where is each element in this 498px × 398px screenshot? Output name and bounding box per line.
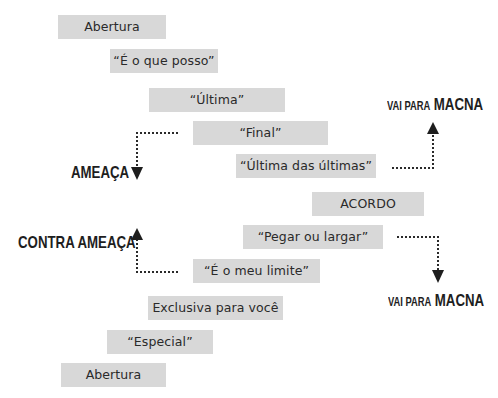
connector-limite-to-contra-ameaca: [137, 238, 178, 272]
connector-layer: [0, 0, 498, 398]
arrowhead-up-icon: [131, 228, 143, 240]
connector-pegar-ou-largar-to-macna: [397, 237, 438, 272]
connector-final-to-ameaca: [137, 133, 178, 168]
arrowhead-down-icon: [432, 270, 444, 283]
arrowhead-up-icon: [427, 122, 439, 134]
arrowhead-down-icon: [131, 167, 143, 180]
connector-ultima-das-ultimas-to-macna: [392, 132, 433, 168]
